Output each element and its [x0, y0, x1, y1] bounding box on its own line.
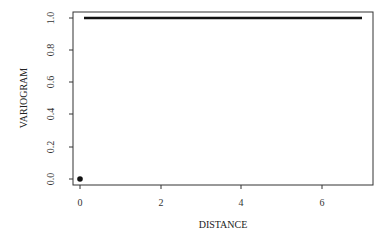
y-tick-label: 0.8: [45, 44, 56, 57]
x-tick-label: 0: [78, 197, 83, 208]
y-tick-label: 0.0: [45, 173, 56, 186]
y-tick-label: 0.2: [45, 141, 56, 154]
y-axis-title: VARIOGRAM: [18, 68, 29, 128]
x-tick-label: 2: [159, 197, 164, 208]
x-tick-label: 6: [320, 197, 325, 208]
x-axis: 0 2 4 6 DISTANCE: [78, 185, 325, 230]
y-tick-label: 1.0: [45, 12, 56, 25]
x-tick-label: 4: [239, 197, 244, 208]
variogram-point: [77, 176, 83, 182]
plot-frame: [73, 12, 373, 185]
variogram-chart: 0.0 0.2 0.4 0.6 0.8 1.0 VARIOGRAM 0 2 4 …: [0, 0, 391, 237]
x-axis-title: DISTANCE: [199, 219, 248, 230]
y-tick-label: 0.4: [45, 108, 56, 121]
y-tick-label: 0.6: [45, 76, 56, 89]
y-axis: 0.0 0.2 0.4 0.6 0.8 1.0 VARIOGRAM: [18, 12, 73, 186]
